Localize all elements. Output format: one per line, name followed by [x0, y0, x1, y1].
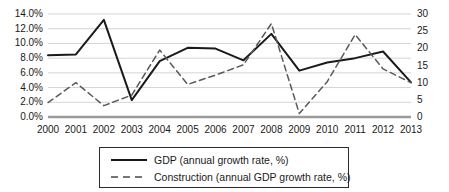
y-left-tick-label: 10.0%	[0, 38, 43, 48]
y-left-tick-label: 0.0%	[0, 112, 43, 122]
legend-label-construction: Construction (annual GDP growth rate, %)	[154, 171, 350, 183]
y-right-tick-label: 15	[417, 61, 449, 71]
legend-item-gdp: GDP (annual growth rate, %)	[100, 151, 348, 169]
legend-item-construction: Construction (annual GDP growth rate, %)	[100, 168, 348, 186]
y-right-tick-label: 10	[417, 78, 449, 88]
y-right-tick-label: 30	[417, 9, 449, 19]
y-right-tick-label: 0	[417, 112, 449, 122]
y-right-tick-label: 5	[417, 95, 449, 105]
plot-area	[0, 0, 449, 140]
y-right-tick-label: 20	[417, 43, 449, 53]
y-left-tick-label: 2.0%	[0, 97, 43, 107]
series-line-construction	[48, 24, 411, 114]
legend-dashed-line-icon	[110, 171, 148, 183]
legend-label-gdp: GDP (annual growth rate, %)	[154, 154, 289, 166]
y-left-tick-label: 8.0%	[0, 53, 43, 63]
y-left-tick-label: 14.0%	[0, 9, 43, 19]
y-right-tick-label: 25	[417, 26, 449, 36]
chart-container: 0.0%2.0%4.0%6.0%8.0%10.0%12.0%14.0% 0510…	[0, 0, 449, 192]
chart-legend: GDP (annual growth rate, %) Construction…	[99, 147, 349, 188]
y-left-tick-label: 12.0%	[0, 24, 43, 34]
legend-solid-line-icon	[110, 154, 148, 166]
x-tick-label: 2013	[394, 125, 428, 135]
chart-svg	[0, 0, 449, 140]
y-left-tick-label: 6.0%	[0, 68, 43, 78]
y-left-tick-label: 4.0%	[0, 83, 43, 93]
